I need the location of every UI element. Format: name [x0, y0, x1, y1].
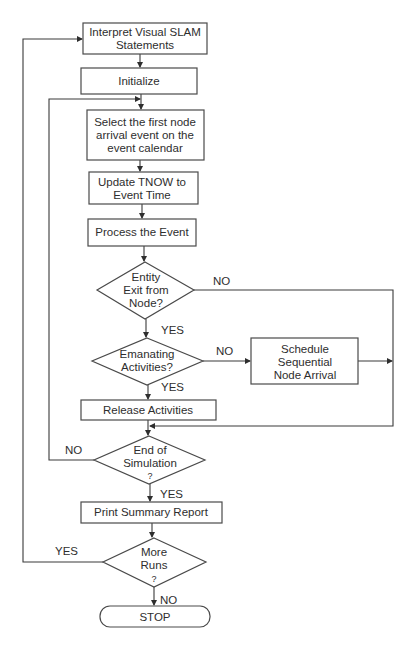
- node-interpret-line-1: Interpret Visual SLAM: [89, 26, 201, 38]
- node-emanating-line-2: Activities?: [121, 361, 173, 373]
- node-print-line-1: Print Summary Report: [94, 506, 209, 518]
- node-more-runs-line-3: ?: [151, 574, 156, 584]
- node-select-line-2: arrival event on the: [96, 129, 194, 141]
- label-end-sim-no: NO: [65, 444, 82, 456]
- node-release: Release Activities: [81, 400, 216, 420]
- node-end-sim-line-3: ?: [147, 471, 152, 481]
- node-select-line-1: Select the first node: [94, 116, 196, 128]
- node-end-sim: End of Simulation ?: [94, 436, 205, 484]
- node-entity-exit-line-1: Entity: [132, 271, 161, 283]
- node-interpret-line-2: Statements: [116, 39, 174, 51]
- node-schedule: Schedule Sequential Node Arrival: [251, 338, 358, 384]
- node-emanating-line-1: Emanating: [120, 348, 175, 360]
- node-stop-line-1: STOP: [139, 611, 170, 623]
- node-select: Select the first node arrival event on t…: [87, 110, 204, 160]
- node-print: Print Summary Report: [81, 502, 222, 523]
- flowchart: Interpret Visual SLAM Statements Initial…: [0, 0, 414, 648]
- label-emanating-no: NO: [216, 345, 233, 357]
- node-more-runs-line-2: Runs: [141, 559, 168, 571]
- node-select-line-3: event calendar: [107, 142, 183, 154]
- node-initialize-line-1: Initialize: [118, 75, 160, 87]
- label-entity-exit-no: NO: [213, 275, 230, 287]
- node-interpret: Interpret Visual SLAM Statements: [83, 23, 207, 54]
- node-initialize: Initialize: [81, 68, 197, 94]
- label-more-runs-yes: YES: [55, 545, 78, 557]
- label-end-sim-yes: YES: [160, 488, 183, 500]
- node-process: Process the Event: [88, 219, 196, 246]
- node-update-line-1: Update TNOW to: [98, 176, 186, 188]
- label-more-runs-no: NO: [160, 594, 177, 606]
- node-stop: STOP: [100, 606, 210, 627]
- node-more-runs-line-1: More: [141, 546, 167, 558]
- node-end-sim-line-2: Simulation: [123, 457, 177, 469]
- node-more-runs: More Runs ?: [103, 538, 206, 587]
- node-entity-exit: Entity Exit from Node?: [97, 262, 194, 319]
- node-entity-exit-line-3: Node?: [129, 297, 163, 309]
- node-schedule-line-1: Schedule: [281, 343, 329, 355]
- node-schedule-line-2: Sequential: [278, 356, 332, 368]
- node-emanating: Emanating Activities?: [92, 338, 203, 385]
- node-process-line-1: Process the Event: [95, 226, 189, 238]
- node-release-line-1: Release Activities: [103, 404, 193, 416]
- node-update-line-2: Event Time: [113, 189, 171, 201]
- node-end-sim-line-1: End of: [133, 444, 167, 456]
- label-emanating-yes: YES: [161, 381, 184, 393]
- node-schedule-line-3: Node Arrival: [274, 369, 337, 381]
- node-update: Update TNOW to Event Time: [89, 172, 198, 204]
- label-entity-exit-yes: YES: [161, 324, 184, 336]
- node-entity-exit-line-2: Exit from: [123, 284, 168, 296]
